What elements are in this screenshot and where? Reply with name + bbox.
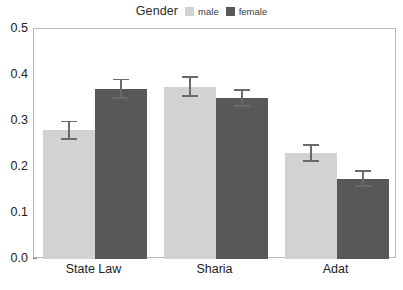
bar-male-2: [285, 153, 337, 259]
y-axis-tick-label: 0.1: [11, 205, 28, 219]
legend-label-male: male: [198, 6, 219, 17]
legend-swatch-female-icon: [226, 7, 235, 16]
error-bar-cap-top: [303, 144, 319, 146]
x-axis-tick-label: Sharia: [196, 262, 232, 276]
y-axis-tick-label: 0.3: [11, 113, 28, 127]
error-bar-stem: [241, 89, 243, 106]
error-bar-cap-top: [182, 76, 198, 78]
bar-chart: Gender male female 0.00.10.20.30.40.5 St…: [0, 0, 403, 290]
error-bar-cap-bottom: [113, 97, 129, 99]
y-axis-tick-mark: [33, 258, 37, 259]
bar-female-0: [95, 89, 147, 259]
legend-swatch-male-icon: [185, 7, 194, 16]
error-bar-stem: [310, 144, 312, 161]
error-bar-cap-top: [355, 170, 371, 172]
y-axis-tick-label: 0.2: [11, 159, 28, 173]
error-bar-stem: [68, 121, 70, 140]
y-axis-labels: 0.00.10.20.30.40.5: [0, 0, 28, 290]
y-axis-tick-label: 0.4: [11, 67, 28, 81]
bar-female-1: [216, 98, 268, 259]
x-axis-tick-label: State Law: [66, 262, 122, 276]
legend-entry-female: female: [226, 6, 268, 17]
legend-label-female: female: [239, 6, 268, 17]
y-axis-tick-label: 0.0: [11, 251, 28, 265]
legend-title: Gender: [136, 4, 178, 18]
error-bar-stem: [120, 79, 122, 99]
x-axis-tick-label: Adat: [323, 262, 349, 276]
error-bar-cap-bottom: [355, 185, 371, 187]
plot-panel: [33, 28, 396, 258]
bar-female-2: [337, 179, 389, 260]
error-bar-cap-top: [234, 89, 250, 91]
bar-male-0: [43, 130, 95, 259]
error-bar-cap-bottom: [303, 160, 319, 162]
legend-entry-male: male: [185, 6, 219, 17]
error-bar-cap-bottom: [234, 105, 250, 107]
chart-legend: Gender male female: [0, 2, 403, 20]
error-bar-cap-top: [61, 121, 77, 123]
y-axis-tick-label: 0.5: [11, 21, 28, 35]
plot-area: [34, 29, 395, 257]
bar-male-1: [164, 87, 216, 260]
error-bar-cap-top: [113, 79, 129, 81]
error-bar-stem: [189, 76, 191, 96]
error-bar-cap-bottom: [182, 95, 198, 97]
error-bar-cap-bottom: [61, 138, 77, 140]
x-axis-labels: State LawShariaAdat: [33, 262, 396, 286]
